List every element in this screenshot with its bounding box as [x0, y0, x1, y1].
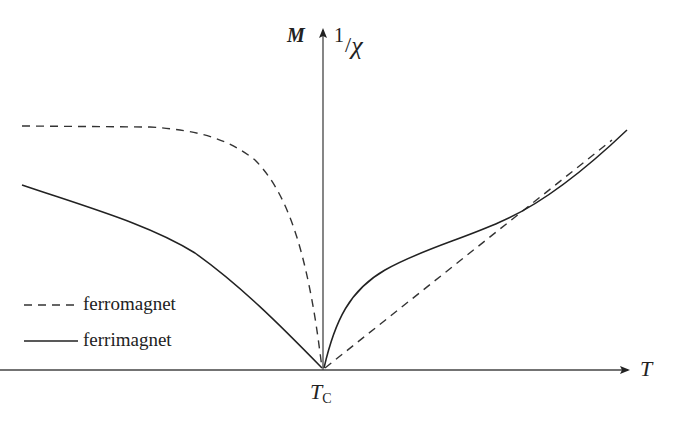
magnetization-diagram	[0, 0, 675, 426]
ferromagnet-inverse-susceptibility-line	[325, 140, 612, 368]
legend-ferromagnet-label: ferromagnet	[83, 293, 176, 315]
tc-main: T	[310, 379, 322, 404]
x-axis-label-temperature: T	[640, 356, 652, 382]
tc-subscript: C	[322, 391, 331, 406]
y-axis-label-inverse-susceptibility: 1/χ	[334, 22, 363, 53]
inv-chi-numerator: 1	[334, 24, 344, 46]
inv-chi-denominator: χ	[351, 31, 362, 60]
y-axis-label-magnetization: M	[287, 24, 305, 47]
legend-ferrimagnet-label: ferrimagnet	[83, 329, 172, 351]
curie-temperature-label: TC	[310, 379, 332, 405]
ferromagnet-magnetization-curve	[22, 126, 322, 368]
